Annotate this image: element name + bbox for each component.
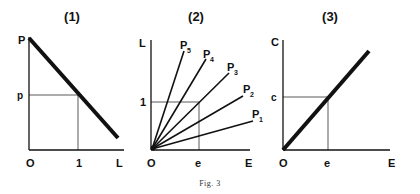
ray-label-p1: P 1 [252, 108, 263, 123]
panel-2: (2) L 1 O e E P 5 P 4 P 3 P 2 P [139, 9, 263, 169]
panel-1: (1) P p O 1 L [17, 9, 124, 169]
panel-2-origin-dot [151, 146, 156, 151]
figure-caption: Fig. 3 [199, 179, 221, 188]
ray-label-p5: P 5 [180, 39, 191, 54]
panel-2-title: (2) [188, 9, 204, 24]
panel-2-y-label: L [139, 37, 146, 49]
svg-text:5: 5 [187, 47, 191, 54]
svg-text:4: 4 [210, 56, 214, 63]
panel-3-title: (3) [322, 9, 338, 24]
panel-3-y-tick: c [271, 92, 277, 103]
panel-2-y-tick: 1 [140, 96, 146, 108]
ray-label-p2: P 2 [243, 83, 254, 98]
panel-1-x-label: L [116, 157, 123, 169]
panel-2-x-tick: e [195, 157, 201, 169]
panel-1-x-tick: 1 [76, 157, 82, 169]
panel-2-origin: O [147, 157, 156, 169]
panel-1-title: (1) [64, 9, 80, 24]
figure-3: (1) P p O 1 L (2) L 1 O e E P 5 P [0, 0, 420, 194]
panel-3: (3) C c O e E [271, 9, 395, 169]
panel-3-y-label: C [271, 36, 279, 48]
panel-3-supply-line [283, 51, 369, 150]
panel-1-y-tick: p [17, 90, 23, 101]
svg-text:2: 2 [250, 91, 254, 98]
panel-3-origin: O [279, 157, 288, 169]
panel-2-x-label: E [245, 157, 252, 169]
panel-3-x-label: E [388, 157, 395, 169]
panel-1-origin: O [26, 157, 35, 169]
panel-1-y-label: P [18, 34, 25, 46]
panel-3-x-tick: e [324, 157, 330, 169]
panel-1-demand-line [29, 38, 118, 138]
svg-text:1: 1 [259, 116, 263, 123]
svg-text:3: 3 [234, 69, 238, 76]
